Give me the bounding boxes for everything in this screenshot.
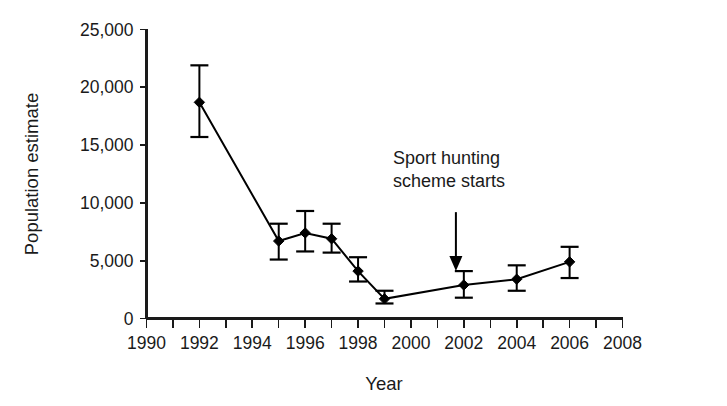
y-axis-tick-labels: 05,00010,00015,00020,00025,000 — [80, 20, 134, 329]
data-series-line — [199, 102, 569, 299]
data-point-marker — [459, 280, 469, 290]
x-axis-tick-labels: 1990199219941996199820002002200420062008 — [127, 333, 642, 353]
x-tick-label: 1998 — [339, 333, 378, 353]
data-point-marker — [564, 257, 574, 267]
x-tick-label: 1990 — [127, 333, 166, 353]
annotation-text-line2: scheme starts — [393, 171, 505, 191]
y-tick-label: 10,000 — [80, 193, 134, 213]
chart-figure: 05,00010,00015,00020,00025,000 199019921… — [0, 0, 727, 406]
x-tick-label: 2002 — [444, 333, 483, 353]
x-axis-ticks — [147, 319, 623, 328]
x-tick-label: 2006 — [550, 333, 589, 353]
y-axis-title: Population estimate — [21, 93, 42, 256]
x-tick-label: 2004 — [497, 333, 536, 353]
data-point-marker — [194, 97, 204, 107]
x-tick-label: 2008 — [603, 333, 642, 353]
y-tick-label: 25,000 — [80, 20, 134, 40]
x-axis-title: Year — [365, 373, 402, 394]
x-tick-label: 1994 — [233, 333, 272, 353]
x-tick-label: 1996 — [286, 333, 325, 353]
data-point-marker — [274, 236, 284, 246]
x-tick-label: 2000 — [391, 333, 430, 353]
data-point-marker — [512, 274, 522, 284]
y-tick-label: 20,000 — [80, 77, 134, 97]
annotation-group: Sport hunting scheme starts — [393, 148, 505, 271]
y-tick-label: 5,000 — [90, 251, 134, 271]
data-series-errorbars — [190, 65, 578, 303]
annotation-text-line1: Sport hunting — [393, 148, 500, 168]
series-polyline — [199, 102, 569, 299]
annotation-arrow-head — [449, 256, 462, 271]
y-tick-label: 15,000 — [80, 135, 134, 155]
population-estimate-line-chart: 05,00010,00015,00020,00025,000 199019921… — [0, 0, 727, 406]
annotation-down-arrow-icon — [449, 212, 462, 271]
data-point-marker — [300, 228, 310, 238]
y-tick-label: 0 — [124, 309, 134, 329]
x-tick-label: 1992 — [180, 333, 219, 353]
